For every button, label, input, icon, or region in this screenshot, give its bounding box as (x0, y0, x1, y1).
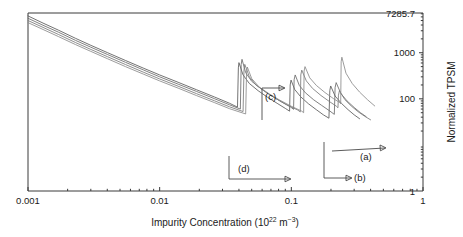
x-tick-label-0: 0.001 (16, 195, 40, 206)
annotation-label-b: (b) (354, 172, 366, 183)
annotation-label-a: (a) (360, 151, 372, 162)
chart-canvas: 0.0010.010.11 7285.710001001 (d) (c) (b) (0, 0, 463, 237)
y-tick-label-1: 1000 (394, 47, 415, 58)
annotation-label-d: (d) (238, 163, 250, 174)
x-tick-label-3: 1 (420, 195, 425, 206)
x-tick-label-2: 0.1 (285, 195, 298, 206)
x-axis-title-tail: ) (295, 217, 298, 228)
annotation-label-c: (c) (265, 91, 276, 102)
x-axis-title-main: Impurity Concentration (10 (151, 217, 269, 228)
x-axis-title-mid: m (277, 217, 288, 228)
svg-text:Impurity Concentration (1022 m: Impurity Concentration (1022 m−3) (151, 216, 299, 228)
figure-container: 0.0010.010.11 7285.710001001 (d) (c) (b) (0, 0, 463, 237)
y-tick-label-0: 7285.7 (386, 8, 415, 19)
y-axis-title: Normalized TPSM (446, 62, 457, 143)
x-axis-title: Impurity Concentration (1022 m−3) (151, 216, 299, 228)
y-tick-label-3: 1 (410, 186, 415, 197)
y-tick-label-2: 100 (399, 93, 415, 104)
x-tick-label-1: 0.01 (150, 195, 169, 206)
y-axis-title-text: Normalized TPSM (446, 62, 457, 143)
